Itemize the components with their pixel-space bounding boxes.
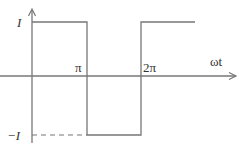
label-x-axis-omega-t: ωt <box>210 54 223 69</box>
label-y-high: I <box>16 15 22 30</box>
square-wave-trace <box>32 22 195 135</box>
x-axis <box>0 73 236 80</box>
square-wave-diagram: I −I π 2π ωt <box>0 0 241 149</box>
label-x-2pi: 2π <box>143 60 157 75</box>
label-x-pi: π <box>75 60 82 75</box>
label-y-low: −I <box>7 128 21 143</box>
